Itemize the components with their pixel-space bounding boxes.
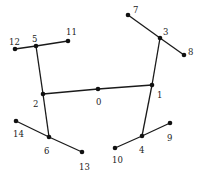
node-12 <box>13 47 18 52</box>
node-label-11: 11 <box>66 27 77 37</box>
node-label-1: 1 <box>157 90 162 100</box>
node-label-8: 8 <box>188 47 193 57</box>
edge-0-2 <box>43 89 98 94</box>
node-label-3: 3 <box>163 27 168 37</box>
edge-0-1 <box>98 85 152 89</box>
node-10 <box>113 146 118 151</box>
node-11 <box>66 39 71 44</box>
node-label-14: 14 <box>13 129 24 139</box>
edge-2-6 <box>43 94 49 137</box>
node-label-6: 6 <box>44 146 49 156</box>
node-3 <box>158 36 163 41</box>
edge-1-3 <box>152 38 160 85</box>
edges-group <box>15 15 184 152</box>
node-5 <box>34 44 39 49</box>
node-label-10: 10 <box>112 155 123 165</box>
node-2 <box>41 92 46 97</box>
node-13 <box>80 150 85 155</box>
node-label-2: 2 <box>33 99 38 109</box>
node-label-9: 9 <box>167 133 172 143</box>
node-4 <box>140 134 145 139</box>
nodes-group <box>13 13 187 155</box>
node-label-13: 13 <box>79 162 90 172</box>
node-label-12: 12 <box>9 37 20 47</box>
node-9 <box>168 121 173 126</box>
node-0 <box>96 87 101 92</box>
node-label-5: 5 <box>32 34 37 44</box>
edge-3-7 <box>128 15 160 38</box>
node-label-4: 4 <box>139 145 144 155</box>
node-8 <box>182 53 187 58</box>
node-1 <box>150 83 155 88</box>
node-14 <box>14 119 19 124</box>
node-6 <box>47 135 52 140</box>
edge-3-8 <box>160 38 184 55</box>
edge-4-10 <box>115 136 142 148</box>
edge-2-5 <box>36 46 43 94</box>
edge-1-4 <box>142 85 152 136</box>
edge-4-9 <box>142 123 170 136</box>
edge-5-11 <box>36 41 68 46</box>
tree-diagram: 01234567891011121314 <box>0 0 205 179</box>
edge-6-13 <box>49 137 82 152</box>
node-label-7: 7 <box>133 5 138 15</box>
node-7 <box>126 13 131 18</box>
node-label-0: 0 <box>96 97 101 107</box>
